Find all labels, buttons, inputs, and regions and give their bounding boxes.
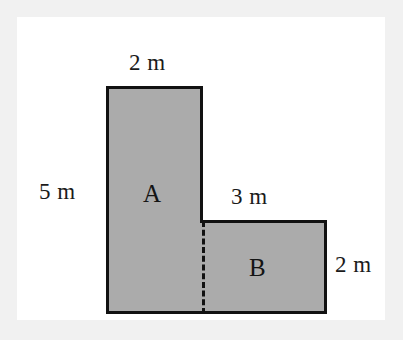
dimension-label-left-height: 5 m <box>39 180 76 203</box>
region-label-a: A <box>143 181 161 206</box>
diagram-canvas: 2 m 5 m 3 m 2 m A B <box>17 17 385 320</box>
dimension-label-top-width: 2 m <box>129 51 166 74</box>
dimension-label-inner-top-width: 3 m <box>231 185 268 208</box>
figure-root: 2 m 5 m 3 m 2 m A B <box>0 0 403 340</box>
region-label-b: B <box>249 255 266 280</box>
dimension-label-right-height: 2 m <box>335 253 372 276</box>
dashed-divider-line <box>202 221 205 314</box>
